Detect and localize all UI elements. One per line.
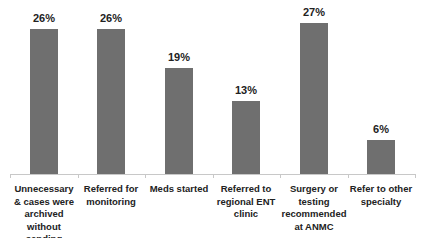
x-axis-tick bbox=[10, 174, 11, 178]
bar bbox=[97, 29, 125, 174]
bar bbox=[232, 101, 260, 174]
data-label: 27% bbox=[284, 6, 344, 18]
x-axis-tick bbox=[280, 174, 281, 178]
x-axis-tick bbox=[145, 174, 146, 178]
category-label: Surgery or testing recommended at ANMC bbox=[280, 183, 348, 233]
data-label: 19% bbox=[149, 51, 209, 63]
data-label: 26% bbox=[81, 12, 141, 24]
x-axis-tick bbox=[78, 174, 79, 178]
data-label: 13% bbox=[216, 84, 276, 96]
category-label: Refer to other specialty bbox=[347, 183, 415, 208]
x-axis-tick bbox=[348, 174, 349, 178]
bar bbox=[367, 140, 395, 174]
bar bbox=[165, 68, 193, 174]
x-axis-tick bbox=[415, 174, 416, 178]
category-label: Referred to regional ENT clinic bbox=[212, 183, 280, 221]
bar bbox=[300, 23, 328, 174]
category-label: Referred for monitoring bbox=[77, 183, 145, 208]
data-label: 6% bbox=[351, 123, 411, 135]
data-label: 26% bbox=[14, 12, 74, 24]
category-label: Meds started bbox=[145, 183, 213, 196]
bar-chart: 26%Unnecessary & cases were archived wit… bbox=[0, 0, 426, 238]
bar bbox=[30, 29, 58, 174]
x-axis-tick bbox=[213, 174, 214, 178]
category-label: Unnecessary & cases were archived withou… bbox=[10, 183, 78, 238]
